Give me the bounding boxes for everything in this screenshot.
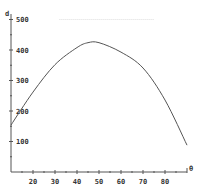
x-tick-label: 70: [139, 178, 147, 186]
x-tick-label: 30: [51, 178, 59, 186]
x-tick-label: 80: [161, 178, 169, 186]
x-axis-label: θ: [189, 165, 193, 173]
x-tick-label: 20: [29, 178, 37, 186]
chart: 10020030040050020304050607080 d θ: [0, 0, 202, 195]
data-curve: [11, 42, 187, 145]
y-tick-label: 400: [16, 47, 29, 55]
x-tick-label: 50: [95, 178, 103, 186]
y-tick-label: 300: [16, 77, 29, 85]
axes: [11, 14, 187, 173]
y-tick-label: 500: [16, 16, 29, 24]
y-axis-label: d: [5, 10, 9, 18]
ticks: [9, 20, 176, 175]
y-tick-label: 100: [16, 138, 29, 146]
x-tick-label: 60: [117, 178, 125, 186]
x-tick-label: 40: [73, 178, 81, 186]
